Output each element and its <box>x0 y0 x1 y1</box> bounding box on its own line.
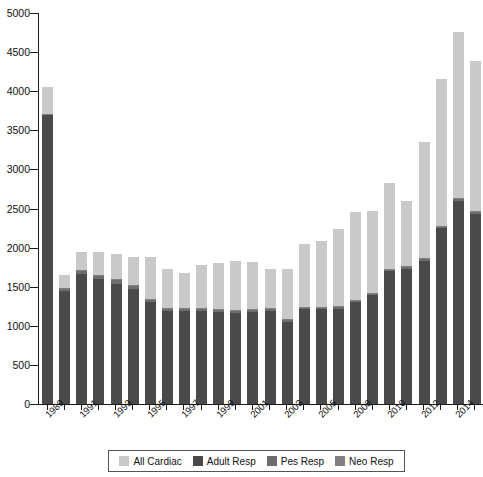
legend-label: Neo Resp <box>349 456 393 467</box>
bar-1989[interactable] <box>42 87 53 404</box>
bar-2000[interactable] <box>230 261 241 404</box>
bar-segment-all-cardiac <box>265 269 276 308</box>
bar-segment-adult-resp <box>213 312 224 404</box>
x-axis-tick <box>474 405 475 410</box>
bar-segment-all-cardiac <box>419 142 430 259</box>
bar-segment-all-cardiac <box>316 241 327 307</box>
y-axis-tick <box>30 287 38 288</box>
bar-segment-adult-resp <box>367 295 378 404</box>
bar-segment-all-cardiac <box>299 244 310 307</box>
bar-segment-all-cardiac <box>333 229 344 306</box>
legend-item-adult-resp[interactable]: Adult Resp <box>193 456 256 467</box>
legend-label: All Cardiac <box>133 456 181 467</box>
y-axis-tick-label: 2000 <box>0 242 30 254</box>
bar-segment-adult-resp <box>453 201 464 404</box>
x-axis-tick <box>338 405 339 410</box>
bar-segment-all-cardiac <box>128 257 139 285</box>
bar-2005[interactable] <box>316 241 327 404</box>
bar-segment-all-cardiac <box>93 252 104 275</box>
bar-2012[interactable] <box>419 142 430 404</box>
legend-label: Adult Resp <box>207 456 256 467</box>
bar-segment-all-cardiac <box>350 212 361 300</box>
legend-swatch-icon <box>335 456 345 466</box>
bar-1994[interactable] <box>128 257 139 404</box>
bar-segment-adult-resp <box>111 284 122 404</box>
bar-1995[interactable] <box>145 257 156 404</box>
bar-segment-adult-resp <box>247 312 258 404</box>
bar-segment-adult-resp <box>128 289 139 404</box>
legend-swatch-icon <box>193 456 203 466</box>
bar-segment-all-cardiac <box>384 183 395 268</box>
bar-1997[interactable] <box>179 273 190 404</box>
y-axis-tick-label: 3000 <box>0 163 30 175</box>
bar-segment-adult-resp <box>93 279 104 404</box>
bar-2006[interactable] <box>333 229 344 404</box>
bar-1998[interactable] <box>196 265 207 404</box>
bar-1991[interactable] <box>76 252 87 404</box>
legend-item-neo-resp[interactable]: Neo Resp <box>335 456 393 467</box>
x-axis-tick <box>372 405 373 410</box>
bar-segment-adult-resp <box>145 302 156 404</box>
bar-segment-all-cardiac <box>230 261 241 309</box>
bar-1992[interactable] <box>93 252 104 404</box>
bar-2002[interactable] <box>265 269 276 404</box>
bar-1999[interactable] <box>213 263 224 404</box>
bar-2003[interactable] <box>282 269 293 405</box>
bar-segment-all-cardiac <box>145 257 156 299</box>
bar-segment-all-cardiac <box>179 273 190 308</box>
bar-segment-all-cardiac <box>59 275 70 288</box>
legend-item-all-cardiac[interactable]: All Cardiac <box>119 456 181 467</box>
y-axis-tick <box>30 130 38 131</box>
y-axis-tick-label: 1000 <box>0 320 30 332</box>
bar-1996[interactable] <box>162 269 173 404</box>
bar-2004[interactable] <box>299 244 310 404</box>
bar-segment-adult-resp <box>265 311 276 404</box>
bar-segment-all-cardiac <box>162 269 173 309</box>
bar-2001[interactable] <box>247 262 258 404</box>
x-axis-tick <box>132 405 133 410</box>
x-axis-tick <box>303 405 304 410</box>
y-axis-tick-label: 1500 <box>0 281 30 293</box>
bar-segment-all-cardiac <box>282 269 293 320</box>
bar-segment-adult-resp <box>196 311 207 404</box>
y-axis-tick-label: 4000 <box>0 85 30 97</box>
x-axis-tick <box>98 405 99 410</box>
bar-segment-adult-resp <box>59 291 70 404</box>
bar-segment-adult-resp <box>282 322 293 404</box>
bar-segment-all-cardiac <box>213 263 224 309</box>
y-axis-tick <box>30 91 38 92</box>
bar-segment-all-cardiac <box>367 211 378 292</box>
bar-2009[interactable] <box>367 211 378 404</box>
y-axis-tick <box>30 209 38 210</box>
bar-2011[interactable] <box>401 201 412 404</box>
bar-2015[interactable] <box>470 61 481 404</box>
bar-segment-all-cardiac <box>436 79 447 225</box>
bar-segment-adult-resp <box>384 271 395 404</box>
bar-segment-adult-resp <box>350 302 361 404</box>
bar-segment-all-cardiac <box>42 87 53 114</box>
y-axis-tick <box>30 365 38 366</box>
y-axis-labels: 0500100015002000250030003500400045005000 <box>0 0 30 477</box>
bar-2014[interactable] <box>453 32 464 404</box>
legend-item-pes-resp[interactable]: Pes Resp <box>267 456 324 467</box>
y-axis-tick <box>30 248 38 249</box>
bar-2013[interactable] <box>436 79 447 404</box>
bar-segment-all-cardiac <box>247 262 258 309</box>
bar-2008[interactable] <box>350 212 361 404</box>
y-axis-tick <box>30 13 38 14</box>
chart-legend: All CardiacAdult RespPes RespNeo Resp <box>108 450 405 472</box>
bar-1990[interactable] <box>59 275 70 404</box>
x-axis-tick <box>166 405 167 410</box>
bar-segment-adult-resp <box>42 115 53 404</box>
bars-container <box>38 13 483 404</box>
bar-1993[interactable] <box>111 254 122 404</box>
x-axis-tick <box>64 405 65 410</box>
bar-segment-all-cardiac <box>401 201 412 266</box>
bar-2010[interactable] <box>384 183 395 404</box>
legend-swatch-icon <box>119 456 129 466</box>
bar-segment-all-cardiac <box>470 61 481 211</box>
y-axis-tick-label: 0 <box>0 398 30 410</box>
x-axis-tick <box>235 405 236 410</box>
bar-segment-adult-resp <box>333 309 344 404</box>
y-axis-tick-label: 3500 <box>0 124 30 136</box>
